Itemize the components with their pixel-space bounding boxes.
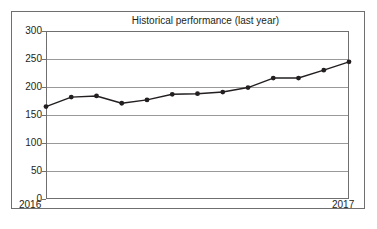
data-point-marker [170, 92, 175, 97]
data-point-marker [220, 90, 225, 95]
plot-border [47, 32, 349, 199]
data-point-marker [119, 101, 124, 106]
line-chart-svg [0, 0, 377, 229]
data-point-marker [321, 68, 326, 73]
data-line [46, 62, 349, 107]
data-point-marker [145, 97, 150, 102]
data-point-marker [271, 76, 276, 81]
data-point-marker [246, 85, 251, 90]
data-point-marker [347, 59, 352, 64]
data-point-marker [296, 76, 301, 81]
data-point-marker [69, 95, 74, 100]
chart-figure: Historical performance (last year) 300 2… [0, 0, 377, 229]
data-point-marker [94, 94, 99, 99]
data-markers-group [44, 59, 352, 109]
axis-ticks-group [42, 32, 46, 200]
plot-area [0, 0, 377, 229]
data-point-marker [195, 91, 200, 96]
data-point-marker [44, 104, 49, 109]
